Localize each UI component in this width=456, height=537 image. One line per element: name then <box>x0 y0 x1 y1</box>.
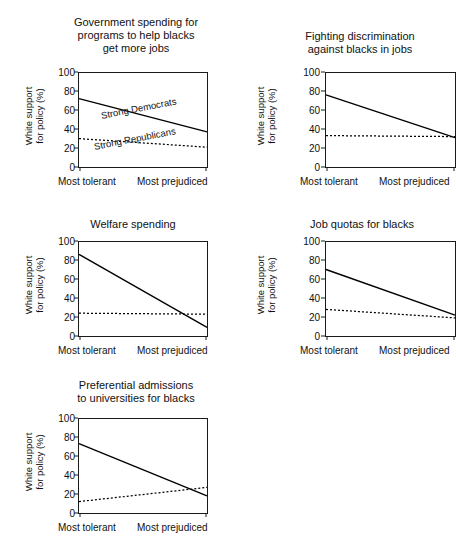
svg-text:80: 80 <box>309 255 321 266</box>
svg-text:100: 100 <box>303 68 320 78</box>
plot-area: 100 80 60 40 20 0 <box>276 68 456 176</box>
y-tick-labels: 100 80 60 40 20 0 <box>303 237 320 342</box>
plot-area: 100 80 60 40 20 0 <box>44 68 214 176</box>
chart-title: Preferential admissions to universities … <box>48 379 224 405</box>
y-tick-labels: 100 80 60 40 20 0 <box>58 414 75 519</box>
svg-text:100: 100 <box>58 237 75 247</box>
chart-title: Fighting discrimination against blacks i… <box>276 30 444 56</box>
plot-frame <box>79 419 208 514</box>
svg-text:0: 0 <box>314 162 320 173</box>
plot-area: 100 80 60 40 20 0 <box>44 237 214 345</box>
y-tick-labels: 100 80 60 40 20 0 <box>303 68 320 173</box>
x-tick-label-left: Most tolerant <box>58 345 116 356</box>
svg-text:0: 0 <box>314 331 320 342</box>
svg-text:80: 80 <box>64 86 76 97</box>
svg-text:60: 60 <box>309 105 321 116</box>
svg-text:100: 100 <box>58 68 75 78</box>
svg-text:80: 80 <box>64 255 76 266</box>
chart-title: Job quotas for blacks <box>276 218 448 231</box>
svg-text:60: 60 <box>64 274 76 285</box>
series-strong-democrats <box>79 444 207 496</box>
x-tick-label-right: Most prejudiced <box>137 522 208 533</box>
plot-area: 100 80 60 40 20 0 <box>44 414 214 522</box>
chart-title: Government spending for programs to help… <box>56 16 216 55</box>
svg-text:20: 20 <box>309 143 321 154</box>
x-tick-label-right: Most prejudiced <box>137 176 208 187</box>
chart-title: Welfare spending <box>48 218 218 231</box>
chart-panel-job-quotas-for-blacks: Job quotas for blacks White support for … <box>228 196 452 368</box>
y-axis-label: White support for policy (%) <box>255 246 277 324</box>
svg-text:40: 40 <box>64 124 76 135</box>
svg-text:40: 40 <box>64 470 76 481</box>
svg-text:80: 80 <box>64 432 76 443</box>
x-tick-label-right: Most prejudiced <box>379 176 450 187</box>
y-axis-label: White support for policy (%) <box>23 246 45 324</box>
x-tick-label-left: Most tolerant <box>58 522 116 533</box>
chart-panel-fighting-discrimination-jobs: Fighting discrimination against blacks i… <box>228 0 452 196</box>
svg-text:40: 40 <box>64 293 76 304</box>
plot-frame <box>79 73 208 168</box>
chart-panel-govt-spending-jobs: Government spending for programs to help… <box>0 0 228 196</box>
svg-text:60: 60 <box>64 451 76 462</box>
svg-text:20: 20 <box>64 143 76 154</box>
chart-panel-preferential-admissions: Preferential admissions to universities … <box>0 368 240 537</box>
series-strong-democrats <box>326 95 455 138</box>
series-strong-republicans <box>79 313 207 314</box>
svg-text:20: 20 <box>64 312 76 323</box>
y-axis-ticks <box>321 241 325 336</box>
plot-area: 100 80 60 40 20 0 <box>276 237 456 345</box>
series-strong-republicans <box>79 487 207 501</box>
svg-text:80: 80 <box>309 86 321 97</box>
x-tick-label-right: Most prejudiced <box>379 345 450 356</box>
svg-text:60: 60 <box>309 274 321 285</box>
svg-text:40: 40 <box>309 124 321 135</box>
y-tick-labels: 100 80 60 40 20 0 <box>58 237 75 342</box>
chart-panel-welfare-spending: Welfare spending White support for polic… <box>0 196 228 368</box>
plot-frame <box>79 242 208 337</box>
x-tick-label-left: Most tolerant <box>300 345 358 356</box>
svg-text:60: 60 <box>64 105 76 116</box>
y-axis-label: White support for policy (%) <box>23 423 45 501</box>
plot-frame <box>326 73 456 168</box>
series-strong-democrats <box>326 270 455 316</box>
x-tick-label-right: Most prejudiced <box>137 345 208 356</box>
y-axis-label: White support for policy (%) <box>23 77 45 155</box>
y-axis-label: White support for policy (%) <box>255 77 277 155</box>
svg-text:100: 100 <box>303 237 320 247</box>
svg-text:40: 40 <box>309 293 321 304</box>
y-tick-labels: 100 80 60 40 20 0 <box>58 68 75 173</box>
svg-text:20: 20 <box>309 312 321 323</box>
series-strong-republicans <box>326 309 455 318</box>
series-strong-republicans <box>326 136 455 137</box>
plot-frame <box>326 242 456 337</box>
series-strong-democrats <box>79 254 207 327</box>
y-axis-ticks <box>321 72 325 167</box>
x-tick-label-left: Most tolerant <box>58 176 116 187</box>
svg-text:100: 100 <box>58 414 75 424</box>
x-tick-label-left: Most tolerant <box>300 176 358 187</box>
svg-text:20: 20 <box>64 489 76 500</box>
